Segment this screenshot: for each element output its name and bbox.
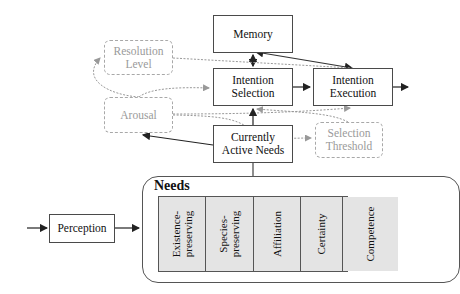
currently-active-needs-label: Currently Active Needs xyxy=(222,131,284,157)
intention-selection-box: Intention Selection xyxy=(213,68,293,106)
memory-box: Memory xyxy=(213,15,293,53)
selection-threshold-box: Selection Threshold xyxy=(315,122,383,158)
selection-threshold-label: Selection Threshold xyxy=(326,127,373,153)
needs-grid: Existence- preserving Species- preservin… xyxy=(158,196,348,272)
currently-active-needs-box: Currently Active Needs xyxy=(213,125,293,163)
need-certainty: Certainty xyxy=(301,197,343,271)
need-competence: Competence xyxy=(343,197,398,271)
resolution-level-label: Resolution Level xyxy=(114,45,164,71)
arousal-box: Arousal xyxy=(104,97,173,133)
memory-label: Memory xyxy=(233,28,273,41)
needs-title: Needs xyxy=(154,178,190,194)
intention-execution-label: Intention Execution xyxy=(330,74,377,100)
arousal-label: Arousal xyxy=(120,109,156,122)
perception-label: Perception xyxy=(57,222,106,235)
perception-box: Perception xyxy=(49,214,115,243)
intention-selection-label: Intention Selection xyxy=(232,74,275,100)
need-species-preserving: Species- preserving xyxy=(206,197,253,271)
resolution-level-box: Resolution Level xyxy=(104,40,173,75)
need-existence-preserving: Existence- preserving xyxy=(159,197,206,271)
need-affiliation: Affiliation xyxy=(254,197,301,271)
intention-execution-box: Intention Execution xyxy=(313,68,393,106)
